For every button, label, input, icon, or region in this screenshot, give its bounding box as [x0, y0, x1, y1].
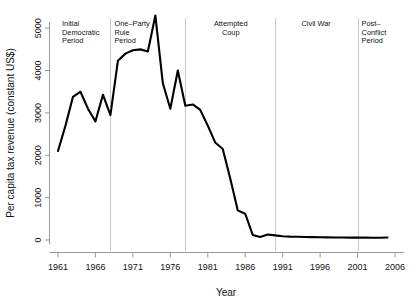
x-axis: 1961196619711976198119861991199620012006 — [48, 253, 405, 273]
x-axis-title: Year — [216, 287, 237, 298]
period-label-4: Civil War — [280, 20, 352, 29]
x-tick-label: 2006 — [385, 262, 405, 272]
x-tick-label: 2001 — [348, 262, 368, 272]
y-axis-title: Per capita tax revenue (constant US$) — [5, 48, 16, 218]
x-tick-label: 1971 — [123, 262, 143, 272]
x-tick-label: 1996 — [310, 262, 330, 272]
y-tick-label: 2000 — [33, 145, 43, 165]
y-tick-label: 5000 — [33, 18, 43, 38]
period-label-5: Post– Conflict Period — [362, 20, 387, 46]
y-tick-label: 1000 — [33, 188, 43, 208]
x-tick-label: 1961 — [48, 262, 68, 272]
period-label-1: Initial Democratic Period — [62, 20, 99, 46]
x-tick-label: 1976 — [160, 262, 180, 272]
x-tick-label: 1991 — [273, 262, 293, 272]
data-series-line — [58, 15, 388, 237]
period-divider-lines — [111, 18, 359, 251]
tax-revenue-line-chart: 010002000300040005000 196119661971197619… — [0, 0, 412, 307]
x-tick-label: 1986 — [235, 262, 255, 272]
y-tick-label: 3000 — [33, 103, 43, 123]
y-tick-label: 0 — [33, 237, 43, 242]
period-label-2: One–Party Rule Period — [114, 20, 149, 46]
x-tick-label: 1966 — [85, 262, 105, 272]
chart-container: 010002000300040005000 196119661971197619… — [0, 0, 412, 307]
period-label-3: Attempted Coup — [190, 20, 271, 37]
y-tick-label: 4000 — [33, 61, 43, 81]
y-axis: 010002000300040005000 — [33, 18, 50, 244]
x-tick-label: 1981 — [198, 262, 218, 272]
